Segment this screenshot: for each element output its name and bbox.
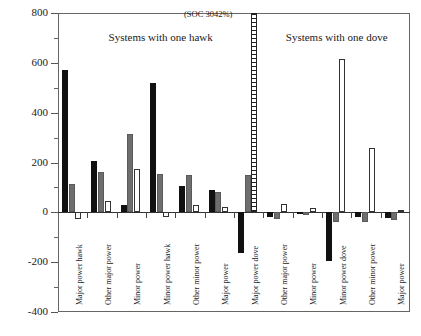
group-separator-tick: [205, 212, 206, 218]
bar-gray: [186, 175, 192, 212]
group-separator-tick: [381, 212, 382, 218]
y-tick-label: 0: [14, 206, 48, 217]
y-tick-mark: [51, 63, 58, 64]
bar-gray: [391, 212, 397, 219]
bar-black: [238, 212, 244, 253]
bar-white: [339, 59, 345, 212]
bar-white: [222, 207, 228, 212]
bar-black: [62, 70, 68, 212]
category-label: Minor power: [134, 263, 142, 305]
category-label: Other minor power: [369, 244, 377, 305]
bar-black: [326, 212, 332, 261]
bar-white: [369, 148, 375, 213]
y-tick-label: -200: [14, 256, 48, 267]
bar-white: [251, 13, 257, 212]
bar-white: [398, 210, 404, 212]
bar-black: [91, 161, 97, 212]
bar-black: [150, 83, 156, 213]
bar-black: [179, 186, 185, 212]
y-tick-mark: [51, 13, 58, 14]
bar-black: [355, 212, 361, 217]
bar-gray: [98, 172, 104, 212]
bar-gray: [215, 192, 221, 212]
bar-gray: [274, 212, 280, 219]
y-tick-mark: [51, 312, 58, 313]
y-tick-mark: [51, 262, 58, 263]
bar-gray: [362, 212, 368, 221]
category-label: Major power: [222, 263, 230, 305]
chart-container: Percentage Change from Baseline 80060040…: [0, 0, 421, 336]
bar-black: [209, 190, 215, 212]
group-separator-tick: [146, 212, 147, 218]
bar-gray: [157, 174, 163, 213]
bar-gray: [333, 212, 339, 222]
bar-white: [75, 212, 81, 218]
category-label: Other minor power: [193, 244, 201, 305]
y-tick-label: 800: [14, 7, 48, 18]
bar-gray: [245, 175, 251, 212]
y-tick-mark: [51, 163, 58, 164]
category-label: Other major power: [281, 244, 289, 305]
bar-black: [385, 212, 391, 217]
y-tick-mark: [51, 212, 58, 213]
bar-white: [163, 212, 169, 216]
bar-gray: [127, 134, 133, 212]
category-label: Major power hawk: [76, 244, 84, 305]
bar-gray: [303, 212, 309, 214]
group-separator-tick: [234, 212, 235, 218]
category-label: Major power dove: [252, 246, 260, 305]
category-label: Major power: [398, 263, 406, 305]
y-tick-label: 600: [14, 57, 48, 68]
bar-white: [105, 201, 111, 212]
y-tick-mark: [51, 113, 58, 114]
group-separator-tick: [263, 212, 264, 218]
group-separator-tick: [87, 212, 88, 218]
category-label: Minor power dove: [340, 245, 348, 305]
bar-white: [281, 204, 287, 212]
group-separator-tick: [175, 212, 176, 218]
bar-black: [297, 212, 303, 214]
bar-black: [121, 205, 127, 212]
group-separator-tick: [322, 212, 323, 218]
y-tick-label: -400: [14, 306, 48, 317]
category-label: Minor power hawk: [164, 244, 172, 305]
bar-gray: [69, 184, 75, 213]
category-label: Minor power: [310, 263, 318, 305]
group-separator-tick: [351, 212, 352, 218]
category-label: Other major power: [105, 244, 113, 305]
bar-white: [310, 208, 316, 212]
bar-black: [267, 212, 273, 216]
y-tick-label: 200: [14, 157, 48, 168]
bar-white: [134, 169, 140, 213]
y-tick-label: 400: [14, 107, 48, 118]
bar-white: [193, 205, 199, 212]
group-separator-tick: [117, 212, 118, 218]
group-separator-tick: [293, 212, 294, 218]
